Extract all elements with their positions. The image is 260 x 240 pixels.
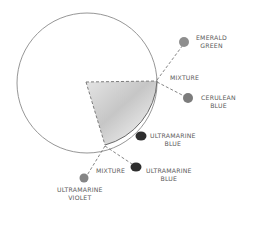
cerulean-blue-swatch bbox=[183, 93, 193, 103]
ultramarine-blue-swatch-a bbox=[136, 132, 147, 141]
label-line: VIOLET bbox=[57, 194, 103, 202]
label-line: BLUE bbox=[146, 175, 192, 183]
ultramarine-blue-swatch-b bbox=[131, 163, 142, 172]
label-cerulean-blue: CERULEAN BLUE bbox=[201, 94, 236, 110]
ultramarine-violet-swatch bbox=[80, 174, 89, 183]
leader-ultramarine-b bbox=[105, 146, 135, 166]
label-ultramarine-blue-a: ULTRAMARINE BLUE bbox=[150, 132, 196, 148]
label-line: ULTRAMARINE bbox=[57, 186, 103, 194]
label-line: EMERALD bbox=[196, 34, 227, 42]
leader-cerulean bbox=[157, 82, 186, 97]
label-mixture-top: MIXTURE bbox=[170, 74, 199, 82]
label-mixture-bottom: MIXTURE bbox=[96, 167, 125, 175]
label-line: ULTRAMARINE bbox=[146, 167, 192, 175]
label-ultramarine-violet: ULTRAMARINE VIOLET bbox=[57, 186, 103, 202]
label-line: ULTRAMARINE bbox=[150, 132, 196, 140]
label-emerald-green: EMERALD GREEN bbox=[196, 34, 227, 50]
label-line: BLUE bbox=[201, 102, 236, 110]
label-line: BLUE bbox=[150, 140, 196, 148]
label-line: CERULEAN bbox=[201, 94, 236, 102]
label-ultramarine-blue-b: ULTRAMARINE BLUE bbox=[146, 167, 192, 183]
emerald-green-swatch bbox=[179, 37, 189, 47]
label-line: GREEN bbox=[196, 42, 227, 50]
